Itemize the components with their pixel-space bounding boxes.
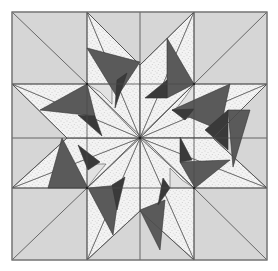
quilt-block-svg (0, 0, 278, 271)
diagram-caption (0, 262, 278, 271)
quilt-block-diagram (0, 0, 278, 271)
